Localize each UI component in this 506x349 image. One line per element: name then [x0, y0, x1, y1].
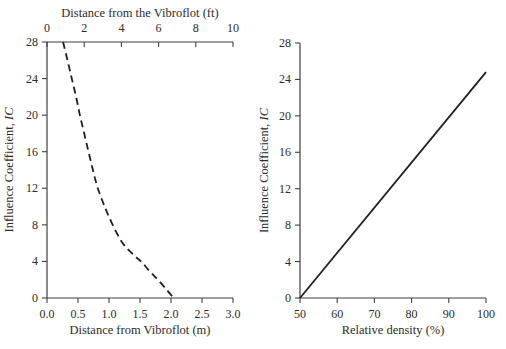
x-top-tick-label: 4	[118, 21, 124, 35]
y-tick-label: 24	[279, 72, 291, 86]
figure-canvas: 04812162024280.00.51.01.52.02.53.0Distan…	[0, 0, 506, 349]
influence-coefficient-vs-distance-curve	[63, 42, 173, 297]
y-tick-label: 4	[32, 254, 38, 268]
x-top-tick-label: 6	[156, 21, 162, 35]
figure-root: 04812162024280.00.51.01.52.02.53.0Distan…	[0, 0, 506, 349]
x-top-tick-label: 2	[81, 21, 87, 35]
influence-coefficient-vs-relative-density-line	[300, 72, 486, 298]
x-tick-label: 60	[331, 307, 343, 321]
y-tick-label: 20	[26, 108, 38, 122]
y-tick-label: 0	[32, 291, 38, 305]
chart-left: 04812162024280.00.51.01.52.02.53.0Distan…	[2, 6, 241, 337]
x-axis-title: Relative density (%)	[342, 323, 445, 337]
x-axis-top-title: Distance from the Vibroflot (ft)	[61, 6, 218, 20]
y-tick-label: 12	[279, 182, 291, 196]
x-tick-label: 80	[406, 307, 418, 321]
x-top-tick-label: 10	[227, 21, 239, 35]
x-tick-label: 70	[368, 307, 380, 321]
y-tick-label: 0	[285, 291, 291, 305]
x-tick-label: 0.0	[40, 307, 55, 321]
y-tick-label: 28	[279, 36, 291, 50]
x-tick-label: 2.0	[164, 307, 179, 321]
y-tick-label: 4	[285, 255, 291, 269]
x-tick-label: 1.0	[102, 307, 117, 321]
x-tick-label: 0.5	[71, 307, 86, 321]
x-axis-title: Distance from Vibroflot (m)	[70, 323, 211, 337]
y-tick-label: 16	[26, 145, 38, 159]
y-axis-title: Influence Coefficient, IC	[257, 107, 271, 233]
x-tick-label: 1.5	[133, 307, 148, 321]
y-tick-label: 24	[26, 72, 38, 86]
y-axis-title: Influence Coefficient, IC	[2, 107, 16, 233]
chart-right: 04812162024285060708090100Relative densi…	[257, 36, 495, 337]
x-tick-label: 3.0	[226, 307, 241, 321]
y-tick-label: 20	[279, 109, 291, 123]
y-tick-label: 28	[26, 35, 38, 49]
y-tick-label: 8	[32, 218, 38, 232]
x-tick-label: 2.5	[195, 307, 210, 321]
x-top-tick-label: 0	[44, 21, 50, 35]
x-tick-label: 90	[443, 307, 455, 321]
x-top-tick-label: 8	[193, 21, 199, 35]
y-tick-label: 8	[285, 218, 291, 232]
y-tick-label: 12	[26, 181, 38, 195]
x-tick-label: 100	[477, 307, 495, 321]
y-tick-label: 16	[279, 145, 291, 159]
x-tick-label: 50	[294, 307, 306, 321]
